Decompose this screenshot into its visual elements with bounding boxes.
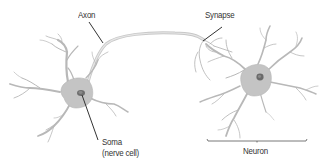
synapse-label: Synapse [205, 10, 235, 20]
axon [88, 33, 204, 82]
synapse-leader-line [203, 27, 222, 41]
right-neuron [200, 26, 318, 138]
neuron-diagram: Axon Synapse Soma (nerve cell) Neuron [0, 0, 321, 165]
left-soma [61, 78, 93, 108]
axon-label: Axon [78, 10, 95, 20]
right-soma [241, 64, 272, 96]
left-neuron [10, 34, 128, 142]
soma-sublabel: (nerve cell) [102, 148, 139, 158]
axon-leader-line [89, 22, 103, 43]
soma-label: Soma [102, 137, 122, 147]
neuron-label: Neuron [243, 146, 268, 156]
neuron-bracket [207, 139, 307, 143]
